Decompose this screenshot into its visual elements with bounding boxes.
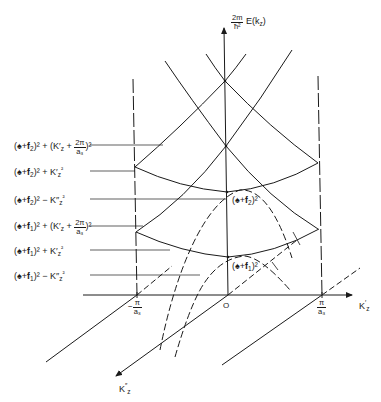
- min-1-part-a: (♠+𝐟: [232, 261, 248, 271]
- dashed-back-left: [137, 266, 172, 295]
- level-3-plus: +: [64, 221, 74, 231]
- label-level-6: (♠+𝐟2)² + (K′z + 2πa₃)²: [14, 139, 92, 155]
- label-level-2: (♠+𝐟1)² + K′z²: [14, 245, 63, 258]
- level-1-sub-z: z: [59, 275, 62, 282]
- level-5-part-a: (♠+𝐟: [14, 167, 30, 177]
- level-6-plus: +: [64, 141, 74, 151]
- dashed-parabola-upper: [160, 190, 292, 350]
- level-2-power: ²: [61, 244, 63, 251]
- level-5-part-b: )² + K′: [34, 167, 58, 177]
- kz-dprime-sub: z: [127, 388, 130, 395]
- energy-label-close: ): [263, 16, 266, 26]
- min-2-part-a: (♠+𝐟: [232, 195, 248, 205]
- level-4-sub-z: z: [59, 199, 62, 206]
- level-4-power: ²: [62, 193, 64, 200]
- dashed-tick-b: [272, 262, 278, 270]
- energy-axis: [224, 28, 228, 295]
- label-level-5: (♠+𝐟2)² + K′z²: [14, 166, 63, 179]
- level-4-part-a: (♠+𝐟: [14, 195, 30, 205]
- kz-prime-axis-label: K′z: [359, 300, 369, 313]
- node-top: [224, 80, 227, 83]
- label-level-4: (♠+𝐟2)² − K″z²: [14, 194, 65, 207]
- level-3-frac-den: a₃: [74, 228, 85, 236]
- node-min-2: [226, 191, 229, 194]
- label-level-3: (♠+𝐟1)² + (K′z + 2πa₃)²: [14, 219, 92, 235]
- zone-boundary-left: [133, 79, 137, 295]
- zone-boundary-right: [318, 76, 322, 295]
- level-2-part-a: (♠+𝐟: [14, 246, 30, 256]
- origin-label: O: [223, 302, 229, 310]
- label-min-2: (♠+𝐟2)²: [232, 196, 258, 207]
- level-6-frac-den: a₃: [74, 148, 85, 156]
- node-min-1: [227, 256, 230, 259]
- level-2-sub-z: z: [58, 250, 61, 257]
- band-curve-c: [206, 54, 318, 163]
- energy-label-func: E(k: [246, 16, 260, 26]
- kz-prime-sub: z: [366, 305, 369, 312]
- level-6-part-e: )²: [86, 141, 92, 151]
- dashed-back-right: [322, 268, 360, 295]
- min-2-part-b: )²: [252, 195, 258, 205]
- tick-label-pos-pi: πa₃: [317, 299, 326, 315]
- band-curve-b: [136, 50, 292, 232]
- band-structure-diagram: 2mħ² E(kz) (♠+𝐟2)² + (K′z + 2πa₃)² (♠+𝐟2…: [0, 0, 381, 402]
- energy-axis-label: 2mħ² E(kz): [231, 14, 266, 30]
- level-6-part-a: (♠+𝐟: [14, 141, 30, 151]
- level-6-part-b: )² + (K′: [34, 141, 61, 151]
- energy-label-denominator: ħ²: [231, 23, 243, 31]
- tick-label-neg-pi: −πa₃: [128, 299, 142, 315]
- label-min-1: (♠+𝐟1)²: [232, 262, 258, 273]
- level-3-part-b: )² + (K′: [34, 221, 61, 231]
- label-level-1: (♠+𝐟1)² − K″z²: [14, 270, 65, 283]
- level-3-part-a: (♠+𝐟: [14, 221, 30, 231]
- dashed-tick-a: [293, 232, 300, 245]
- min-1-part-b: )²: [252, 261, 258, 271]
- level-5-power: ²: [61, 165, 63, 172]
- level-3-part-e: )²: [86, 221, 92, 231]
- band-lower-left: [136, 232, 228, 257]
- level-1-part-a: (♠+𝐟: [14, 271, 30, 281]
- pos-pi-den: a₃: [317, 308, 326, 316]
- level-4-part-b: )² − K″: [34, 195, 59, 205]
- band-lower-right: [228, 229, 319, 257]
- band-upper-left: [135, 167, 227, 192]
- zone-boundary-depth-left: [46, 295, 137, 362]
- level-1-part-b: )² − K″: [34, 271, 59, 281]
- zone-boundary-depth-right: [222, 295, 322, 365]
- neg-pi-den: a₃: [133, 308, 142, 316]
- band-upper-right: [227, 163, 318, 192]
- level-5-sub-z: z: [58, 171, 61, 178]
- kz-double-prime-axis-label: K″z: [119, 383, 131, 396]
- level-2-part-b: )² + K′: [34, 246, 58, 256]
- level-1-power: ²: [62, 269, 64, 276]
- node-mid: [225, 145, 228, 148]
